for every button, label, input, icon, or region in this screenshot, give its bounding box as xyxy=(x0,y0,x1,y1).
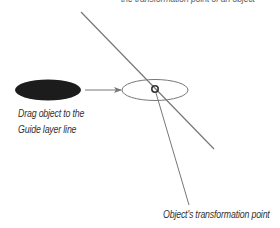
target-object-outline xyxy=(122,80,188,101)
top-caption: the transformation point of an object xyxy=(121,0,255,6)
drag-instruction-line1: Drag object to the xyxy=(18,108,84,119)
drag-instruction-line2: Guide layer line xyxy=(18,124,76,135)
drag-instruction-label: Drag object to the Guide layer line xyxy=(18,106,106,138)
transformation-point-label: Object's transformation point xyxy=(163,207,270,222)
transformation-point-callout-line xyxy=(156,93,189,205)
source-object-ellipse[interactable] xyxy=(15,80,81,101)
